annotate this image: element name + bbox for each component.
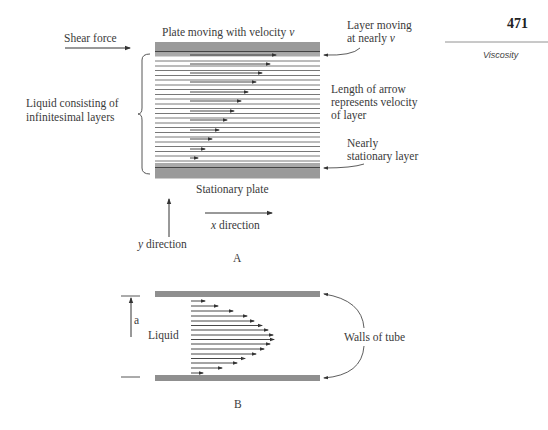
moving-plate xyxy=(155,42,320,51)
liquid-layers-label-1: Liquid consisting of xyxy=(26,96,119,110)
layer-top-callout xyxy=(324,48,360,55)
layers-brace xyxy=(138,54,150,174)
walls-of-tube-label: Walls of tube xyxy=(344,330,405,344)
arrow-length-label-2: represents velocity xyxy=(331,95,418,109)
x-direction-label: x direction xyxy=(211,218,260,232)
nearly-stationary-callout xyxy=(324,164,364,168)
liquid-layers-label-2: infinitesimal layers xyxy=(26,110,114,124)
caption-a: A xyxy=(233,251,241,265)
tube-wall-top xyxy=(155,291,320,297)
liquid-layers xyxy=(155,61,320,161)
y-direction-label: y direction xyxy=(138,237,187,251)
section-title: Viscosity xyxy=(483,50,518,60)
arrow-length-label-3: of layer xyxy=(331,108,366,122)
layer-top-label-1: Layer moving xyxy=(347,18,412,32)
walls-callout-top xyxy=(324,294,364,328)
arrow-length-label-1: Length of arrow xyxy=(331,82,406,96)
stationary-plate xyxy=(155,169,320,179)
tube-wall-bottom xyxy=(155,375,320,381)
page-number: 471 xyxy=(507,16,528,32)
diagram-canvas xyxy=(0,0,548,430)
velocity-profile-arrows xyxy=(191,301,274,373)
liquid-label: Liquid xyxy=(148,328,179,342)
nearly-stationary-label-2: stationary layer xyxy=(347,149,418,163)
radius-label: a xyxy=(134,313,139,327)
moving-plate-label: Plate moving with velocity v xyxy=(162,25,294,39)
nearly-stationary-label-1: Nearly xyxy=(347,136,378,150)
stationary-plate-label: Stationary plate xyxy=(196,182,269,196)
walls-callout-bottom xyxy=(324,346,364,378)
caption-b: B xyxy=(234,397,242,411)
shear-force-label: Shear force xyxy=(64,31,117,45)
layer-top-label-2: at nearly v xyxy=(347,31,395,45)
